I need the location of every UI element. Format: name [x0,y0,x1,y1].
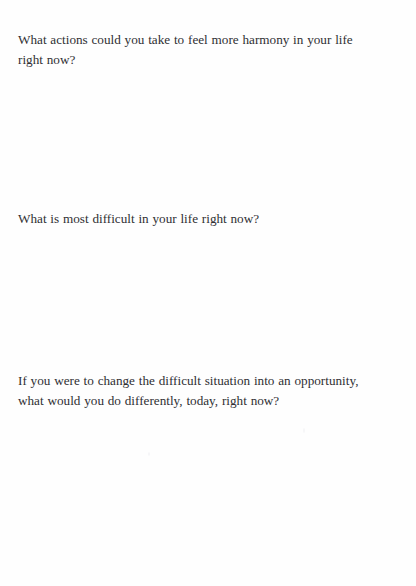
question-2-line-1: What is most difficult in your life righ… [18,211,259,226]
answer-space-1[interactable] [18,72,400,205]
question-3-line-2: what would you do differently, today, ri… [18,391,400,411]
question-1-line-1: What actions could you take to feel more… [18,32,353,47]
question-3-line-1: If you were to change the difficult situ… [18,373,358,388]
scanned-page: What actions could you take to feel more… [0,0,416,586]
question-1-line-2: right now? [18,50,400,70]
answer-space-2[interactable] [18,231,400,367]
journal-question-3: If you were to change the difficult situ… [18,371,400,411]
journal-question-1: What actions could you take to feel more… [18,30,400,70]
answer-space-3[interactable] [18,413,400,578]
journal-question-2: What is most difficult in your life righ… [18,209,400,229]
running-header [0,0,416,2]
